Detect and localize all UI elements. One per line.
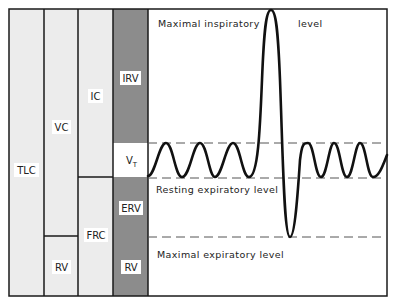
erv-rv-segment — [113, 177, 148, 296]
erv-label: ERV — [121, 203, 141, 214]
resting-expiratory-level-label: Resting expiratory level — [156, 184, 278, 195]
maximal-expiratory-level-label: Maximal expiratory level — [157, 249, 284, 260]
tlc-label: TLC — [16, 165, 36, 176]
ic-frc-column — [78, 9, 113, 296]
ic-label: IC — [91, 91, 101, 102]
vc-label: VC — [55, 122, 69, 133]
lung-volumes-diagram: TLC VC RV IC FRC IRV VT ERV RV Maximal i… — [0, 0, 394, 303]
frc-label: FRC — [86, 230, 105, 241]
maximal-inspiratory-level-label: Maximal inspiratory — [158, 18, 260, 29]
rv-volume-label: RV — [124, 262, 137, 273]
vt-subscript: T — [132, 161, 138, 169]
vc-rv-column — [44, 9, 78, 296]
rv-label: RV — [55, 262, 68, 273]
irv-label: IRV — [122, 73, 138, 84]
tlc-column — [9, 9, 44, 296]
maximal-inspiratory-level-label-right: level — [298, 18, 323, 29]
